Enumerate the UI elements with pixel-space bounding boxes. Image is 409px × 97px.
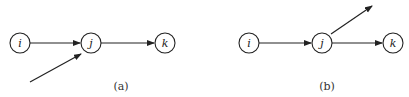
node-label-i: i bbox=[18, 37, 22, 50]
node-i: i bbox=[239, 33, 259, 53]
node-k: k bbox=[155, 33, 175, 53]
node-label-k: k bbox=[162, 37, 169, 50]
node-i: i bbox=[10, 33, 30, 53]
node-label-i: i bbox=[247, 37, 251, 50]
node-j: j bbox=[81, 33, 101, 53]
node-label-k: k bbox=[390, 37, 397, 50]
caption-b: (b) bbox=[319, 80, 335, 93]
node-j: j bbox=[312, 33, 332, 53]
edge-incoming-to-j bbox=[30, 54, 81, 82]
caption-a: (a) bbox=[113, 80, 128, 93]
diagram-a: i j k (a) bbox=[10, 33, 175, 93]
diagram-b: i j k (b) bbox=[239, 6, 403, 93]
edge-outgoing-from-j bbox=[331, 6, 372, 34]
node-k: k bbox=[383, 33, 403, 53]
network-diagram: i j k (a) i j k (b) bbox=[0, 0, 409, 97]
